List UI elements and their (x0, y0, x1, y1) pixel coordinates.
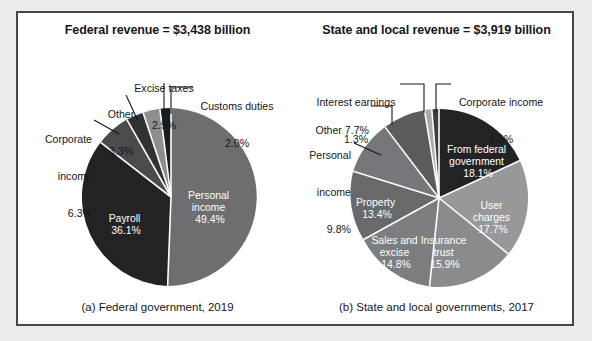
callout-line-2: 1.3% (453, 133, 549, 145)
callout-line-3: 6.3% (28, 207, 92, 219)
federal-inside-label-payroll: Payroll 36.1% (109, 213, 144, 236)
federal-callout-corporate-income: Corporate income 6.3% (28, 108, 92, 244)
figure-border-box: Federal revenue = $3,438 billion (16, 11, 574, 326)
callout-line-1: Customs duties (191, 100, 283, 112)
callout-line-1: Corporate income (453, 96, 549, 108)
panel-state-caption: (b) State and local governments, 2017 (297, 301, 576, 313)
state-callout-personal-income: Personal income 9.8% (297, 124, 351, 260)
callout-line-2: income (297, 186, 351, 198)
state-callout-corporate-income: Corporate income 1.3% (453, 71, 549, 170)
callout-line-2: income (28, 170, 92, 182)
callout-line-2: 2.0% (191, 137, 283, 149)
callout-line-1: Corporate (28, 133, 92, 145)
callout-line-1: Personal (297, 149, 351, 161)
panel-federal-caption: (a) Federal government, 2019 (18, 301, 297, 313)
callout-line-3: 9.8% (297, 223, 351, 235)
panel-state-local-revenue: State and local revenue = $3,919 billion (297, 13, 576, 324)
figure-root: Federal revenue = $3,438 billion (0, 0, 592, 341)
federal-callout-customs-duties: Customs duties 2.0% (191, 75, 283, 174)
panel-federal-revenue: Federal revenue = $3,438 billion (18, 13, 297, 324)
